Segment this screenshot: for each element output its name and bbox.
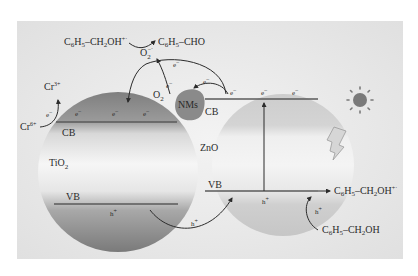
zno-vb-label: VB bbox=[208, 179, 222, 190]
nms-label: NMs bbox=[178, 99, 198, 110]
tio2-cb-label: CB bbox=[62, 127, 76, 138]
zno-particle bbox=[212, 94, 354, 236]
mechanism-diagram: NMs C6H5–CH2OH+· C6H5–CHO O2−· O2 Cr3+ C… bbox=[0, 0, 418, 276]
tio2-vb-label: VB bbox=[66, 191, 80, 202]
zno-label: ZnO bbox=[200, 142, 218, 153]
tio2-particle bbox=[38, 92, 198, 252]
zno-cb-label: CB bbox=[205, 106, 219, 117]
